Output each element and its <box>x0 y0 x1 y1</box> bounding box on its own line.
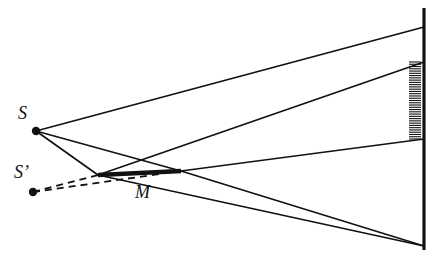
incident-ray-to-mirror-left <box>36 131 98 175</box>
reflected-ray-from-mirror-right <box>181 139 424 171</box>
plane-mirror <box>98 171 181 175</box>
mirror-label: M <box>135 183 150 201</box>
incident-ray-to-mirror-right <box>36 131 181 171</box>
direct-ray-upper <box>36 27 424 131</box>
image-label: S’ <box>14 163 29 181</box>
illuminated-band-hatching <box>409 62 421 139</box>
optics-ray-diagram: S S’ M <box>0 0 446 275</box>
image-point-dot <box>29 188 37 196</box>
direct-ray-lower-extension <box>181 171 424 246</box>
source-label: S <box>18 104 27 122</box>
reflected-ray-from-mirror-left <box>98 62 424 175</box>
virtual-ray-to-mirror-left <box>33 175 98 192</box>
diagram-canvas <box>0 0 446 275</box>
source-point-dot <box>32 127 40 135</box>
solid-ray-group <box>36 27 424 246</box>
